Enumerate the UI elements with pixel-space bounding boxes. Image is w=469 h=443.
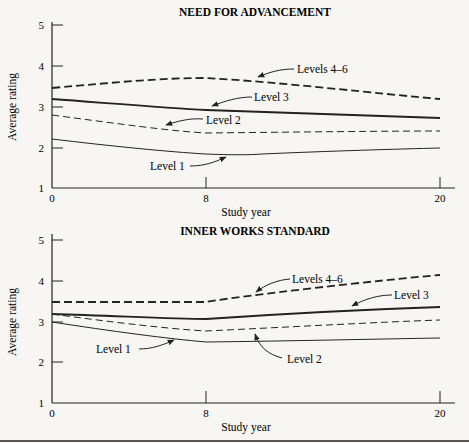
x-tick-label: 8 — [203, 407, 209, 419]
x-ticks: 0 8 20 — [49, 177, 446, 204]
svg-text:Level 2: Level 2 — [206, 114, 241, 126]
series-levels-4-6 — [52, 275, 440, 302]
annotation-level-1: Level 1 — [150, 157, 226, 172]
series-level-1 — [52, 322, 440, 342]
y-tick-label: 1 — [39, 397, 45, 409]
y-tick-label: 5 — [39, 234, 45, 246]
y-tick-label: 5 — [39, 19, 45, 31]
annotation-level-2: Level 2 — [166, 114, 241, 126]
annotation-level-2: Level 2 — [255, 334, 322, 365]
y-tick-label: 4 — [39, 60, 45, 72]
y-tick-label: 3 — [39, 101, 45, 113]
series-level-1 — [52, 139, 440, 155]
series-level-3 — [52, 307, 440, 319]
annotation-levels-4-6: Levels 4–6 — [256, 273, 343, 292]
annotation-level-1: Level 1 — [96, 340, 174, 355]
y-ticks: 5 4 3 2 1 — [39, 19, 64, 194]
figure: NEED FOR ADVANCEMENT 5 4 3 2 1 0 8 20 St… — [0, 0, 469, 443]
y-tick-label: 2 — [39, 356, 45, 368]
svg-text:Level 1: Level 1 — [150, 160, 185, 172]
y-axis-label: Average rating — [6, 288, 19, 356]
y-ticks: 5 4 3 2 1 — [39, 234, 64, 409]
x-tick-label: 8 — [203, 192, 209, 204]
annotation-level-3: Level 3 — [212, 91, 289, 106]
series-level-2 — [52, 115, 440, 133]
series-level-3 — [52, 99, 440, 118]
y-tick-label: 1 — [39, 182, 45, 194]
y-tick-label: 2 — [39, 142, 45, 154]
x-tick-label: 0 — [49, 192, 55, 204]
annotation-level-3: Level 3 — [352, 289, 429, 306]
x-tick-label: 20 — [435, 192, 447, 204]
series-levels-4-6 — [52, 78, 440, 99]
y-axis-label: Average rating — [6, 73, 19, 141]
y-tick-label: 4 — [39, 275, 45, 287]
x-axis-label: Study year — [221, 421, 271, 434]
x-axis-label: Study year — [221, 206, 271, 219]
chart-title: INNER WORKS STANDARD — [180, 225, 330, 237]
chart-inner-works-standard: INNER WORKS STANDARD 5 4 3 2 1 0 8 20 St… — [6, 225, 455, 434]
x-tick-label: 20 — [435, 407, 447, 419]
chart-need-for-advancement: NEED FOR ADVANCEMENT 5 4 3 2 1 0 8 20 St… — [6, 6, 455, 219]
svg-text:Level 1: Level 1 — [96, 343, 131, 355]
y-tick-label: 3 — [39, 316, 45, 328]
svg-text:Levels 4–6: Levels 4–6 — [292, 273, 343, 285]
chart-title: NEED FOR ADVANCEMENT — [179, 6, 331, 18]
svg-text:Level 2: Level 2 — [287, 353, 322, 365]
annotation-levels-4-6: Levels 4–6 — [258, 63, 348, 77]
svg-text:Level 3: Level 3 — [254, 91, 289, 103]
svg-text:Level 3: Level 3 — [394, 289, 429, 301]
x-tick-label: 0 — [49, 407, 55, 419]
x-ticks: 0 8 20 — [49, 391, 446, 419]
svg-text:Levels 4–6: Levels 4–6 — [297, 63, 348, 75]
